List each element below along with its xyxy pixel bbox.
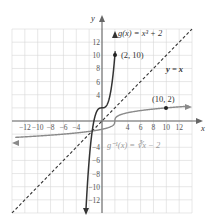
svg-text:−6: −6 xyxy=(92,156,100,165)
svg-text:−12: −12 xyxy=(88,196,100,205)
svg-text:−10: −10 xyxy=(32,123,44,132)
svg-text:10: 10 xyxy=(163,123,171,132)
point-label-10-2: (10, 2) xyxy=(152,94,175,104)
y-axis-label: y xyxy=(90,13,95,23)
point-10-2 xyxy=(164,106,168,110)
g-label: g(x) = x³ + 2 xyxy=(118,28,163,38)
svg-text:4: 4 xyxy=(96,91,100,100)
svg-text:8: 8 xyxy=(152,123,156,132)
svg-text:12: 12 xyxy=(175,123,183,132)
svg-text:12: 12 xyxy=(93,38,101,47)
ginv-arrow-right-icon xyxy=(185,104,192,110)
svg-text:6: 6 xyxy=(139,123,143,132)
svg-text:−8: −8 xyxy=(47,123,55,132)
svg-text:−6: −6 xyxy=(59,123,67,132)
identity-label: y = x xyxy=(165,64,184,74)
ginv-arrow-left-icon xyxy=(12,140,19,146)
svg-text:−4: −4 xyxy=(92,143,100,152)
svg-text:4: 4 xyxy=(126,123,130,132)
point-label-2-10: (2, 10) xyxy=(121,50,144,60)
x-axis-label: x xyxy=(200,123,205,133)
svg-text:6: 6 xyxy=(96,78,100,87)
svg-text:−8: −8 xyxy=(92,170,100,179)
y-axis-arrow-icon xyxy=(99,15,105,22)
point-2-10 xyxy=(113,53,117,57)
x-tick-labels: −12−10−8−6−44681012 xyxy=(19,123,183,132)
function-graph: x y −12−10−8−6−44681012 1210864−4−6−8−10… xyxy=(0,0,216,224)
svg-text:−4: −4 xyxy=(72,123,80,132)
svg-text:−12: −12 xyxy=(19,123,31,132)
g-arrow-down-icon xyxy=(83,208,89,215)
svg-text:−10: −10 xyxy=(88,183,100,192)
svg-text:10: 10 xyxy=(93,51,101,60)
svg-text:8: 8 xyxy=(96,64,100,73)
ginv-label: g⁻¹(x) = ∛x − 2 xyxy=(107,140,161,150)
